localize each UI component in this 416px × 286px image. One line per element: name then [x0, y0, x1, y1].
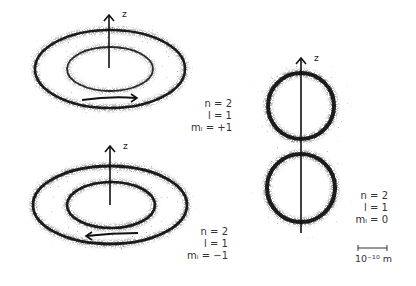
ml-value: mₗ = 0	[330, 214, 388, 226]
quantum-numbers-ml-minus-1: n = 2 l = 1 mₗ = −1	[150, 226, 228, 262]
z-axis-label: z	[122, 9, 127, 19]
l-value: l = 1	[330, 202, 388, 214]
quantum-numbers-ml-plus-1: n = 2 l = 1 mₗ = +1	[150, 98, 232, 134]
scale-bar-label: 10⁻¹⁰ m	[355, 253, 392, 264]
l-value: l = 1	[150, 238, 228, 250]
ml-value: mₗ = +1	[150, 122, 232, 134]
l-value: l = 1	[150, 110, 232, 122]
quantum-numbers-ml-zero: n = 2 l = 1 mₗ = 0	[330, 190, 388, 226]
scale-bar	[358, 245, 387, 251]
z-axis-label: z	[123, 141, 128, 151]
n-value: n = 2	[150, 226, 228, 238]
ml-value: mₗ = −1	[150, 250, 228, 262]
n-value: n = 2	[150, 98, 232, 110]
torus-ml-plus-1	[35, 15, 185, 108]
n-value: n = 2	[330, 190, 388, 202]
z-axis-label: z	[314, 53, 319, 63]
